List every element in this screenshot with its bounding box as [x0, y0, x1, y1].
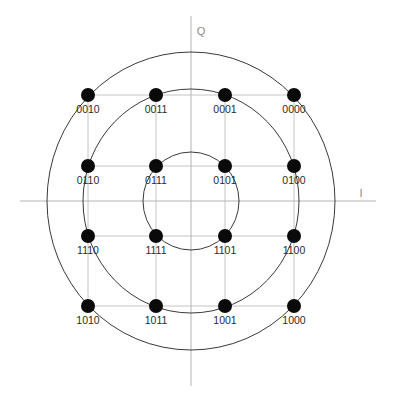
point-marker	[149, 299, 163, 313]
constellation-point-0101: 0101	[213, 159, 237, 186]
point-marker	[218, 159, 232, 173]
constellation-point-1110: 1110	[77, 229, 99, 256]
point-marker	[218, 88, 232, 102]
constellation-point-0110: 0110	[77, 159, 100, 186]
constellation-point-1100: 1100	[283, 229, 306, 256]
point-marker	[218, 229, 232, 243]
constellation-point-0100: 0100	[282, 159, 306, 186]
point-marker	[81, 229, 95, 243]
constellation-diagram: Q I 001000110001000001100111010101001110…	[0, 0, 393, 400]
point-marker	[149, 159, 163, 173]
point-label: 0100	[282, 174, 306, 186]
point-label: 1011	[145, 314, 168, 326]
point-label: 1001	[213, 314, 237, 326]
point-label: 1100	[283, 244, 306, 256]
point-marker	[81, 159, 95, 173]
point-label: 0010	[76, 103, 100, 115]
point-marker	[287, 88, 301, 102]
point-marker	[149, 229, 163, 243]
constellation-point-1011: 1011	[145, 299, 168, 326]
constellation-point-1111: 1111	[145, 229, 166, 256]
constellation-point-0111: 0111	[145, 159, 167, 186]
point-label: 0110	[77, 174, 100, 186]
q-axis-label: Q	[197, 25, 206, 37]
constellation-point-0000: 0000	[282, 88, 306, 115]
point-label: 1101	[214, 244, 237, 256]
point-label: 1110	[77, 244, 99, 256]
point-marker	[287, 159, 301, 173]
point-marker	[218, 299, 232, 313]
point-label: 0111	[145, 174, 167, 186]
axes: Q I	[20, 16, 376, 386]
constellation-point-1001: 1001	[213, 299, 237, 326]
point-label: 1000	[282, 314, 306, 326]
point-marker	[149, 88, 163, 102]
point-label: 1010	[76, 314, 100, 326]
point-label: 0000	[282, 103, 306, 115]
point-marker	[287, 299, 301, 313]
constellation-point-0010: 0010	[76, 88, 100, 115]
point-label: 1111	[145, 244, 166, 256]
point-marker	[81, 88, 95, 102]
point-marker	[81, 299, 95, 313]
point-label: 0011	[145, 103, 168, 115]
point-label: 0101	[213, 174, 237, 186]
i-axis-label: I	[359, 187, 362, 199]
point-label: 0001	[213, 103, 237, 115]
point-marker	[287, 229, 301, 243]
constellation-point-1010: 1010	[76, 299, 100, 326]
